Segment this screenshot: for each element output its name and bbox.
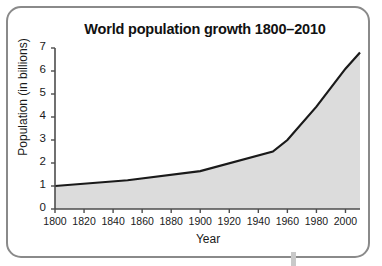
area-fill (55, 53, 360, 209)
x-tick-2000: 2000 (325, 215, 365, 227)
chart-figure: World population growth 1800–2010 Popula… (0, 0, 382, 266)
y-tick-5: 5 (30, 86, 46, 98)
y-tick-6: 6 (30, 63, 46, 75)
y-tick-7: 7 (30, 40, 46, 52)
y-tick-0: 0 (30, 201, 46, 213)
y-tick-4: 4 (30, 109, 46, 121)
y-tick-1: 1 (30, 178, 46, 190)
y-tick-2: 2 (30, 155, 46, 167)
y-tick-3: 3 (30, 132, 46, 144)
